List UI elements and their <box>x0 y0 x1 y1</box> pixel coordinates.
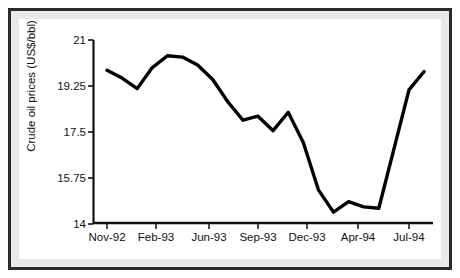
x-tick-label: Sep-93 <box>239 231 276 243</box>
x-tick-label: Nov-92 <box>88 231 125 243</box>
chart-canvas <box>0 0 460 278</box>
x-tick-label: Feb-93 <box>138 231 174 243</box>
chart-figure: Crude oil prices (US$/bbl) 21 19.25 17.5… <box>0 0 460 278</box>
x-tick-label: Jun-93 <box>191 231 226 243</box>
plot-area: Crude oil prices (US$/bbl) 21 19.25 17.5… <box>0 0 460 278</box>
data-line-crude-oil-prices <box>107 56 424 212</box>
x-tick-label: Dec-93 <box>288 231 325 243</box>
x-tick-label: Jul-94 <box>393 231 424 243</box>
x-tick-label: Apr-94 <box>341 231 376 243</box>
